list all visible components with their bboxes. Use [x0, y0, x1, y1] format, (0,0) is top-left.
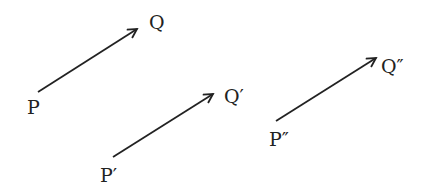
vector-p1q1: [113, 94, 213, 157]
label-q-prime: Q′: [224, 87, 244, 106]
label-p: P: [27, 98, 40, 117]
label-q: Q: [149, 13, 165, 32]
label-p-prime: P′: [100, 166, 117, 185]
vector-p2q2: [276, 58, 376, 121]
label-q-double-prime: Q″: [381, 57, 404, 76]
label-p-double-prime: P″: [269, 130, 289, 149]
vector-diagram: [0, 0, 437, 194]
vector-pq: [38, 29, 137, 92]
